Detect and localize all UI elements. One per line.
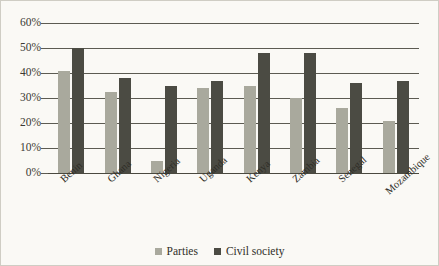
y-axis-tick-label: 60% xyxy=(3,17,41,29)
bar-parties xyxy=(58,71,70,174)
legend-label: Civil society xyxy=(226,246,284,258)
legend-entry-parties: Parties xyxy=(155,246,198,258)
y-axis-tick xyxy=(41,123,48,124)
bar-group xyxy=(141,23,187,173)
legend-swatch-icon xyxy=(155,248,162,255)
bar-parties xyxy=(244,86,256,174)
bar-civil-society xyxy=(72,48,84,173)
y-axis-tick-label: 0% xyxy=(3,167,41,179)
legend-label: Parties xyxy=(167,246,198,258)
bar-group xyxy=(234,23,280,173)
y-axis-tick xyxy=(41,23,48,24)
y-axis-tick xyxy=(41,148,48,149)
bar-chart-figure: 0%10%20%30%40%50%60% BeninGhanaNigeriaUg… xyxy=(0,0,439,266)
bar-group xyxy=(326,23,372,173)
y-axis-tick xyxy=(41,73,48,74)
x-axis-category-labels: BeninGhanaNigeriaUgandaKenyaZambiaSenega… xyxy=(48,173,419,233)
y-axis-tick xyxy=(41,98,48,99)
y-axis-tick-label: 40% xyxy=(3,67,41,79)
bar-group xyxy=(280,23,326,173)
legend-entry-civil: Civil society xyxy=(214,246,284,258)
y-axis-tick xyxy=(41,48,48,49)
y-axis-tick-label: 10% xyxy=(3,142,41,154)
bar-group xyxy=(48,23,94,173)
bar-civil-society xyxy=(397,81,409,174)
y-axis-tick-label: 30% xyxy=(3,92,41,104)
chart-legend: PartiesCivil society xyxy=(1,246,438,258)
bar-parties xyxy=(105,92,117,173)
bar-group xyxy=(94,23,140,173)
y-axis: 0%10%20%30%40%50%60% xyxy=(1,23,41,173)
legend-swatch-icon xyxy=(214,248,221,255)
bar-parties xyxy=(336,108,348,173)
y-axis-tick-label: 20% xyxy=(3,117,41,129)
bar-parties xyxy=(383,121,395,174)
plot-area xyxy=(48,23,419,173)
y-axis-tick-label: 50% xyxy=(3,42,41,54)
bar-civil-society xyxy=(258,53,270,173)
bar-parties xyxy=(197,88,209,173)
bar-parties xyxy=(290,98,302,173)
bar-groups xyxy=(48,23,419,173)
bar-group xyxy=(187,23,233,173)
y-axis-tick xyxy=(41,173,48,174)
bar-group xyxy=(373,23,419,173)
